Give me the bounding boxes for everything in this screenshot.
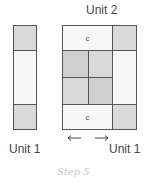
top-c-rect: c bbox=[62, 25, 113, 51]
press-arrow-left-icon bbox=[66, 134, 82, 142]
step-label: Step 5 bbox=[57, 166, 90, 177]
left-strip-top-square bbox=[13, 25, 37, 51]
left-strip-middle-rect bbox=[13, 50, 37, 105]
right-strip-middle-rect bbox=[112, 50, 137, 105]
c-label-bottom: c bbox=[86, 113, 90, 122]
four-patch-bottom-right bbox=[88, 77, 113, 105]
unit1-right-label: Unit 1 bbox=[109, 142, 140, 156]
four-patch-top-right bbox=[88, 50, 113, 78]
unit1-left-label: Unit 1 bbox=[9, 142, 40, 156]
c-label-top: c bbox=[86, 34, 90, 43]
unit2-title: Unit 2 bbox=[86, 3, 117, 17]
bottom-c-rect: c bbox=[62, 104, 113, 130]
right-strip-top-square bbox=[112, 25, 137, 51]
four-patch-bottom-left bbox=[62, 77, 89, 105]
four-patch-top-left bbox=[62, 50, 89, 78]
press-arrow-right-icon bbox=[94, 134, 110, 142]
left-strip-bottom-square bbox=[13, 104, 37, 130]
right-strip-bottom-square bbox=[112, 104, 137, 130]
